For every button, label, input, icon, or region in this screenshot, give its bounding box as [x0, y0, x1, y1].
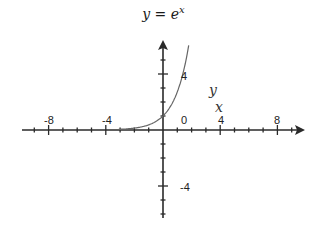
y-tick-label-4: 4 — [181, 70, 187, 82]
x-tick-label-neg4: -4 — [102, 114, 112, 126]
y-tick-label-neg4: -4 — [180, 181, 190, 193]
y-axis-name: y — [208, 82, 218, 98]
y-axis — [158, 40, 168, 218]
x-tick-label-neg8: -8 — [44, 114, 54, 126]
x-axis-name: x — [215, 99, 223, 115]
x-tick-label-4: 4 — [218, 114, 224, 126]
plot-area: -8 -4 0 4 8 4 -4 y x — [0, 0, 327, 236]
exp-curve — [119, 45, 189, 129]
x-tick-label-8: 8 — [274, 114, 280, 126]
x-tick-label-0: 0 — [181, 114, 187, 126]
